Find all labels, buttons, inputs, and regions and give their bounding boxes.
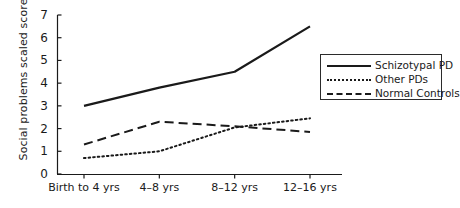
- axes: [57, 15, 342, 179]
- legend-label-1: Other PDs: [375, 73, 428, 85]
- x-tick-label-0: Birth to 4 yrs: [48, 181, 120, 194]
- legend-item-1: Other PDs: [327, 72, 428, 86]
- series-line-0: [84, 26, 310, 106]
- legend-item-0: Schizotypal PD: [327, 58, 453, 72]
- legend: Schizotypal PD Other PDs Normal Controls: [320, 54, 442, 100]
- legend-swatch-dotted-icon: [327, 74, 371, 84]
- legend-swatch-dashed-icon: [327, 88, 371, 98]
- legend-swatch-solid-icon: [327, 60, 371, 70]
- series-line-2: [84, 122, 310, 145]
- legend-label-0: Schizotypal PD: [375, 59, 453, 71]
- legend-label-2: Normal Controls: [375, 87, 460, 99]
- x-tick-label-1: 4–8 yrs: [139, 181, 179, 194]
- x-tick-label-2: 8–12 yrs: [211, 181, 258, 194]
- data-series-group: [84, 26, 310, 158]
- x-tick-label-3: 12–16 yrs: [283, 181, 337, 194]
- x-axis-tick-labels: Birth to 4 yrs4–8 yrs8–12 yrs12–16 yrs: [0, 181, 452, 201]
- legend-item-2: Normal Controls: [327, 86, 460, 100]
- x-axis-ticks: [84, 175, 310, 179]
